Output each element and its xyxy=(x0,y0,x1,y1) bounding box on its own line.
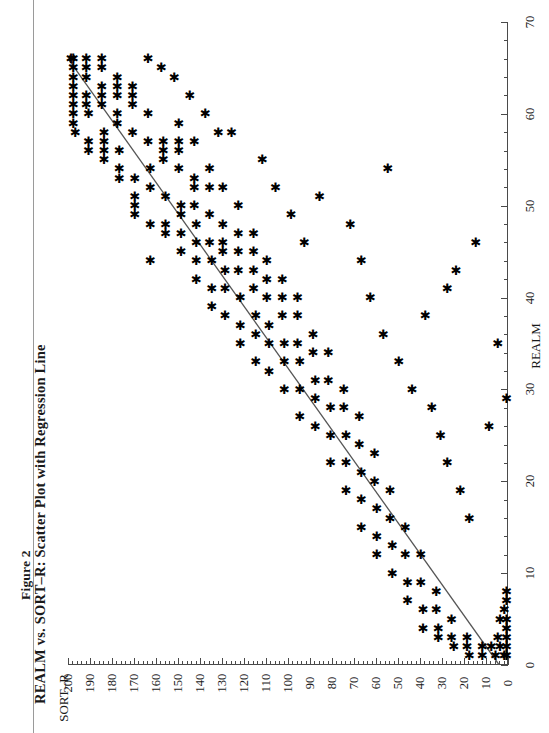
realm-tick xyxy=(504,536,508,537)
data-point xyxy=(501,394,510,403)
data-point xyxy=(354,412,363,421)
sort-r-tick xyxy=(297,661,298,665)
data-point xyxy=(248,229,257,238)
sort-r-tick-label: 20 xyxy=(457,668,471,698)
data-point xyxy=(262,293,271,302)
realm-tick-label: 20 xyxy=(523,466,537,496)
sort-r-tick-label: 50 xyxy=(391,668,405,698)
realm-tick-label: 30 xyxy=(523,374,537,404)
data-point xyxy=(145,183,154,192)
data-point xyxy=(277,293,286,302)
data-point xyxy=(264,339,273,348)
data-point xyxy=(257,155,266,164)
figure-title: REALM vs. SORT–R: Scatter Plot with Regr… xyxy=(32,344,49,704)
data-point xyxy=(176,229,185,238)
data-point xyxy=(477,651,486,660)
data-point xyxy=(233,201,242,210)
sort-r-tick xyxy=(160,661,161,665)
data-point xyxy=(97,100,106,109)
data-point xyxy=(226,128,235,137)
data-point xyxy=(292,339,301,348)
data-point xyxy=(387,541,396,550)
data-point xyxy=(189,137,198,146)
sort-r-tick-label: 140 xyxy=(193,668,207,698)
data-point xyxy=(451,266,460,275)
sort-r-tick xyxy=(460,661,461,665)
data-point xyxy=(402,596,411,605)
figure-page: Figure 2 REALM vs. SORT–R: Scatter Plot … xyxy=(0,0,549,733)
data-point xyxy=(233,229,242,238)
realm-tick xyxy=(501,22,508,23)
sort-r-tick xyxy=(407,661,408,665)
realm-tick xyxy=(504,169,508,170)
sort-r-tick xyxy=(306,661,307,665)
sort-r-tick-label: 0 xyxy=(501,668,515,698)
sort-r-tick xyxy=(90,658,91,665)
realm-tick xyxy=(504,353,508,354)
data-point xyxy=(251,330,260,339)
realm-axis-title: REALM xyxy=(528,320,544,372)
sort-r-tick xyxy=(226,661,227,665)
sort-r-tick xyxy=(420,658,421,665)
sort-r-tick-label: 80 xyxy=(325,668,339,698)
sort-r-tick xyxy=(196,661,197,665)
data-point xyxy=(97,63,106,72)
realm-tick xyxy=(504,279,508,280)
sort-r-tick xyxy=(248,661,249,665)
realm-tick xyxy=(504,500,508,501)
sort-r-tick xyxy=(257,661,258,665)
sort-r-tick xyxy=(253,661,254,665)
data-point xyxy=(292,311,301,320)
data-point xyxy=(83,146,92,155)
realm-tick xyxy=(504,77,508,78)
sort-r-tick xyxy=(363,661,364,665)
data-point xyxy=(279,385,288,394)
sort-r-tick xyxy=(429,661,430,665)
sort-r-tick xyxy=(187,661,188,665)
sort-r-tick xyxy=(240,661,241,665)
sort-r-tick xyxy=(433,661,434,665)
data-point xyxy=(299,238,308,247)
sort-r-tick xyxy=(402,661,403,665)
sort-r-tick xyxy=(86,661,87,665)
sort-r-tick xyxy=(310,658,311,665)
sort-r-tick xyxy=(323,661,324,665)
sort-r-tick xyxy=(275,661,276,665)
data-point xyxy=(323,348,332,357)
data-point xyxy=(400,523,409,532)
realm-tick xyxy=(504,59,508,60)
data-point xyxy=(310,394,319,403)
data-point xyxy=(471,238,480,247)
realm-tick xyxy=(504,316,508,317)
sort-r-tick xyxy=(358,661,359,665)
sort-r-tick-label: 10 xyxy=(479,668,493,698)
data-point xyxy=(372,532,381,541)
data-point xyxy=(264,321,273,330)
data-point xyxy=(112,91,121,100)
data-point xyxy=(218,183,227,192)
data-point xyxy=(464,651,473,660)
sort-r-tick xyxy=(341,661,342,665)
data-point xyxy=(218,247,227,256)
data-point xyxy=(143,109,152,118)
data-point xyxy=(251,311,260,320)
realm-tick xyxy=(504,445,508,446)
data-point xyxy=(339,385,348,394)
data-point xyxy=(446,615,455,624)
sort-r-tick xyxy=(328,661,329,665)
realm-tick xyxy=(501,206,508,207)
sort-r-tick xyxy=(262,661,263,665)
data-point xyxy=(191,256,200,265)
sort-r-tick-label: 150 xyxy=(171,668,185,698)
data-point xyxy=(262,275,271,284)
sort-r-tick xyxy=(372,661,373,665)
sort-r-tick xyxy=(350,661,351,665)
data-point xyxy=(204,183,213,192)
sort-r-tick-label: 190 xyxy=(83,668,97,698)
data-point xyxy=(385,486,394,495)
data-point xyxy=(235,321,244,330)
data-point xyxy=(270,183,279,192)
data-point xyxy=(431,587,440,596)
data-point xyxy=(160,229,169,238)
data-point xyxy=(354,440,363,449)
